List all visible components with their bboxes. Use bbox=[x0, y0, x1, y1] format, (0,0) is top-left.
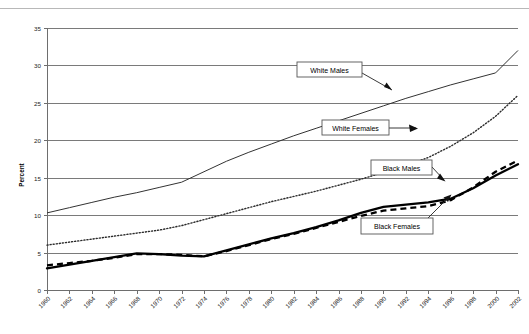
y-axis-labels-group: 05101520253035 bbox=[34, 25, 41, 294]
x-tick-label-1970: 1970 bbox=[149, 294, 164, 309]
x-tick-label-1992: 1992 bbox=[396, 294, 411, 309]
callout-white-males: White Males bbox=[297, 62, 392, 90]
callout-white-females: White Females bbox=[322, 120, 418, 135]
series-line-black-males bbox=[47, 164, 518, 268]
y-tick-label-30: 30 bbox=[34, 62, 41, 69]
x-tick-label-1980: 1980 bbox=[261, 294, 276, 309]
y-tick-label-0: 0 bbox=[38, 287, 42, 294]
y-tick-label-5: 5 bbox=[38, 250, 42, 257]
x-tick-label-1974: 1974 bbox=[194, 294, 209, 309]
x-tick-label-1998: 1998 bbox=[463, 294, 478, 309]
series-line-black-females bbox=[47, 161, 518, 266]
x-tick-label-1982: 1982 bbox=[284, 294, 299, 309]
x-tick-label-2002: 2002 bbox=[508, 294, 523, 309]
x-tick-label-1964: 1964 bbox=[82, 294, 97, 309]
x-tick-label-1966: 1966 bbox=[104, 294, 119, 309]
y-tick-label-20: 20 bbox=[34, 137, 41, 144]
x-tick-label-1978: 1978 bbox=[239, 294, 254, 309]
x-tick-label-1988: 1988 bbox=[351, 294, 366, 309]
callout-arrowhead-white-males bbox=[384, 83, 392, 91]
y-axis-title: Percent bbox=[18, 162, 25, 186]
y-tick-label-15: 15 bbox=[34, 175, 41, 182]
callout-label-black-females: Black Females bbox=[374, 223, 420, 230]
x-axis-labels-group: 1960196219641966196819701972197419761978… bbox=[37, 294, 523, 309]
x-tick-label-1972: 1972 bbox=[172, 294, 187, 309]
callout-label-white-males: White Males bbox=[310, 67, 349, 74]
x-axis-ticks-group bbox=[48, 290, 519, 294]
line-chart: 05101520253035 1960196219641966196819701… bbox=[0, 0, 529, 334]
x-tick-label-1996: 1996 bbox=[441, 294, 456, 309]
callout-arrowhead-white-females bbox=[409, 125, 418, 133]
gridlines-group bbox=[47, 29, 518, 254]
chart-canvas: 05101520253035 1960196219641966196819701… bbox=[0, 0, 529, 334]
x-tick-label-1960: 1960 bbox=[37, 294, 52, 309]
callout-arrowhead-black-males bbox=[437, 174, 446, 182]
series-line-white-males bbox=[47, 50, 518, 212]
y-tick-label-25: 25 bbox=[34, 100, 41, 107]
x-tick-label-1968: 1968 bbox=[127, 294, 142, 309]
x-tick-label-1962: 1962 bbox=[59, 294, 74, 309]
callout-label-black-males: Black Males bbox=[383, 165, 421, 172]
callout-label-white-females: White Females bbox=[332, 125, 379, 132]
x-tick-label-1986: 1986 bbox=[329, 294, 344, 309]
x-tick-label-1976: 1976 bbox=[216, 294, 231, 309]
y-tick-label-10: 10 bbox=[34, 212, 41, 219]
x-tick-label-1990: 1990 bbox=[373, 294, 388, 309]
x-tick-label-1984: 1984 bbox=[306, 294, 321, 309]
series-lines-group bbox=[47, 50, 518, 268]
series-line-white-females bbox=[47, 95, 518, 245]
y-tick-label-35: 35 bbox=[34, 25, 41, 32]
x-tick-label-2000: 2000 bbox=[486, 294, 501, 309]
x-tick-label-1994: 1994 bbox=[418, 294, 433, 309]
